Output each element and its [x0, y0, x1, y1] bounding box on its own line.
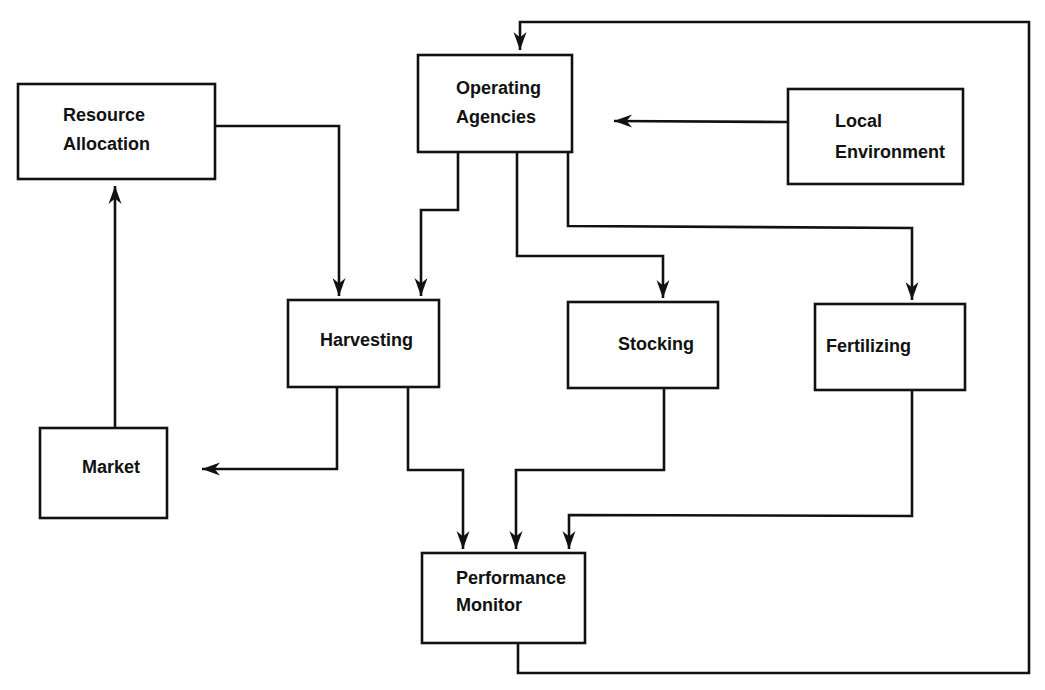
flow-diagram: ResourceAllocationOperatingAgenciesLocal… [0, 0, 1045, 690]
edge-market-to-resource-allocation [109, 186, 122, 428]
node-box [418, 55, 572, 152]
node-stocking: Stocking [568, 302, 718, 388]
connector-line [202, 387, 337, 469]
node-label: Environment [835, 142, 945, 162]
node-market: Market [40, 428, 167, 518]
node-label: Allocation [63, 134, 150, 154]
node-label: Local [835, 111, 882, 131]
connector-line [215, 126, 339, 296]
connector-line [421, 152, 458, 296]
node-label: Fertilizing [826, 336, 911, 356]
node-label: Resource [63, 105, 145, 125]
node-resource-allocation: ResourceAllocation [18, 84, 215, 179]
edge-resource-allocation-to-harvesting [215, 126, 346, 296]
node-harvesting: Harvesting [288, 300, 439, 387]
node-box [788, 89, 963, 184]
node-label: Stocking [618, 334, 694, 354]
edge-harvesting-to-market [202, 387, 337, 476]
node-box [18, 84, 215, 179]
nodes-layer: ResourceAllocationOperatingAgenciesLocal… [18, 55, 965, 643]
node-fertilizing: Fertilizing [815, 304, 965, 390]
connector-line [408, 387, 463, 549]
edge-harvesting-to-performance-monitor [408, 387, 470, 549]
node-label: Agencies [456, 107, 536, 127]
node-local-environment: LocalEnvironment [788, 89, 963, 184]
node-label: Harvesting [320, 330, 413, 350]
node-label: Operating [456, 78, 541, 98]
edge-operating-agencies-to-harvesting [415, 152, 459, 296]
connector-line [614, 121, 788, 122]
edge-local-environment-to-operating-agencies [614, 115, 788, 128]
node-label: Market [82, 457, 140, 477]
node-label: Monitor [456, 595, 522, 615]
node-performance-monitor: PerformanceMonitor [422, 553, 585, 643]
edge-stocking-to-performance-monitor [510, 388, 665, 549]
connector-line [516, 388, 664, 549]
node-label: Performance [456, 568, 566, 588]
node-operating-agencies: OperatingAgencies [418, 55, 572, 152]
